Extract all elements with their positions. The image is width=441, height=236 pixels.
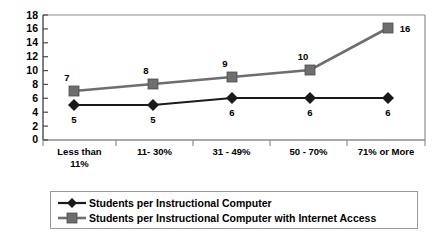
legend-marker-diamond-icon: [57, 196, 87, 210]
x-axis-tick-label-line: 50 - 70%: [270, 146, 347, 158]
x-axis-tick-label: 71% or More: [347, 146, 425, 158]
x-axis-tick-label-line: 31 - 49%: [193, 146, 270, 158]
data-label: 6: [223, 108, 241, 118]
x-axis-tick-label-line: 11%: [43, 158, 116, 170]
x-axis-tick-label: 31 - 49%: [193, 146, 270, 158]
x-axis-tick-label-line: 71% or More: [347, 146, 425, 158]
data-label: 7: [58, 73, 76, 83]
data-label: 8: [137, 66, 155, 76]
legend-item: Students per Instructional Computer: [57, 195, 272, 211]
legend-item: Students per Instructional Computer with…: [57, 210, 376, 226]
data-label: 5: [144, 115, 162, 125]
x-axis-tick-label: 11- 30%: [116, 146, 193, 158]
legend-label: Students per Instructional Computer with…: [89, 213, 376, 224]
data-label: 6: [301, 108, 319, 118]
y-axis-ticks: [43, 15, 48, 140]
chart-container: 18 16 14 12 10 8 6 4 2 0: [0, 0, 441, 236]
x-axis-tick-label-line: 11- 30%: [116, 146, 193, 158]
legend-label: Students per Instructional Computer: [89, 198, 272, 209]
chart-legend: Students per Instructional Computer Stud…: [50, 191, 418, 229]
data-label: 6: [379, 108, 397, 118]
x-axis-tick-label: Less than 11%: [43, 146, 116, 169]
data-label: 9: [216, 59, 234, 69]
data-label: 5: [65, 115, 83, 125]
x-axis-tick-label: 50 - 70%: [270, 146, 347, 158]
legend-marker-square-icon: [57, 211, 87, 225]
data-label: 10: [294, 52, 312, 62]
data-label: 16: [396, 24, 414, 34]
x-axis-tick-label-line: Less than: [43, 146, 116, 158]
